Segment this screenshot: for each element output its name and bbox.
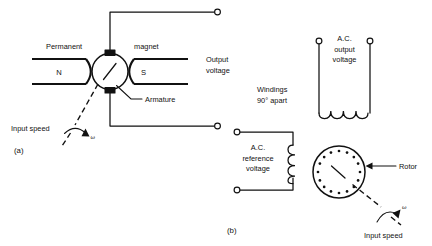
brush-block-top bbox=[105, 50, 116, 57]
rotation-arc-a bbox=[65, 128, 86, 133]
label-permanent: Permanent bbox=[46, 42, 82, 51]
shaft-input-b-stub bbox=[391, 217, 401, 225]
label-rotor: Rotor bbox=[399, 162, 418, 171]
label-armature: Armature bbox=[145, 95, 175, 104]
wire-top-output bbox=[110, 12, 214, 54]
arrowhead-rotor bbox=[366, 163, 373, 170]
panel-a-dc-generator: N S Permanent magnet Armature Output vol… bbox=[11, 9, 230, 155]
label-input-speed-a: Input speed bbox=[11, 124, 50, 133]
label-ac-reference-line2: reference bbox=[242, 154, 273, 163]
label-input-speed-b: Input speed bbox=[364, 231, 403, 240]
panel-b-ac-generator: A.C. output voltage Windings 90° apart A… bbox=[227, 34, 418, 240]
brush-block-bottom bbox=[105, 87, 116, 94]
label-output-voltage-line2: voltage bbox=[206, 66, 230, 75]
schematic-canvas: N S Permanent magnet Armature Output vol… bbox=[0, 0, 432, 246]
label-ac-reference-line3: voltage bbox=[246, 164, 270, 173]
rotation-arrowhead-a bbox=[82, 129, 90, 137]
caption-panel-a: (a) bbox=[14, 146, 24, 155]
caption-panel-b: (b) bbox=[227, 226, 237, 235]
pole-label-south: S bbox=[141, 68, 146, 77]
label-ac-reference-line1: A.C. bbox=[251, 143, 265, 152]
terminal-ac-output-right bbox=[367, 38, 373, 44]
terminal-output-top bbox=[215, 9, 221, 15]
pole-label-north: N bbox=[56, 68, 61, 77]
wire-reference-bottom bbox=[240, 178, 293, 190]
pole-piece-south bbox=[129, 59, 188, 84]
terminal-ac-output-left bbox=[316, 38, 322, 44]
label-windings-line2: 90° apart bbox=[257, 96, 287, 105]
wire-reference-top bbox=[240, 132, 293, 145]
shaft-input-a-stub bbox=[62, 133, 71, 146]
terminal-ac-reference-bottom bbox=[234, 187, 240, 193]
label-omega-b: ω bbox=[402, 203, 407, 210]
coil-output-horizontal bbox=[319, 111, 368, 119]
terminal-ac-reference-top bbox=[234, 129, 240, 135]
label-ac-output-line2: output bbox=[334, 45, 355, 54]
label-magnet: magnet bbox=[134, 42, 159, 51]
shaft-input-b bbox=[353, 185, 382, 208]
leader-armature bbox=[117, 86, 143, 100]
coil-reference-vertical bbox=[288, 145, 295, 184]
label-omega-a: ω bbox=[91, 133, 96, 140]
label-output-voltage-line1: Output bbox=[206, 55, 228, 64]
schematic-figure: N S Permanent magnet Armature Output vol… bbox=[0, 0, 432, 246]
shaft-input-a bbox=[75, 84, 98, 125]
label-ac-output-line1: A.C. bbox=[337, 34, 351, 43]
terminal-output-bottom bbox=[215, 123, 221, 129]
label-ac-output-line3: voltage bbox=[333, 55, 357, 64]
label-windings-line1: Windings bbox=[257, 85, 288, 94]
rotation-arrowhead-b bbox=[393, 210, 401, 219]
